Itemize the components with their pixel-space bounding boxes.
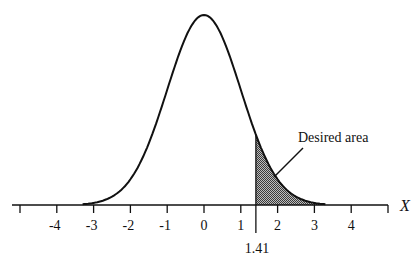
plot-canvas: Desired area X 1.41 -4-3-2-101234 (0, 0, 419, 264)
x-tick-label: 1 (237, 218, 244, 233)
x-axis-tick-labels: -4-3-2-101234 (49, 218, 355, 233)
x-tick-label: -4 (49, 218, 61, 233)
shaded-tail-area (256, 135, 326, 205)
annotation-leader-line (274, 148, 303, 177)
marker-value-label: 1.41 (245, 241, 270, 256)
x-tick-label: 3 (311, 218, 318, 233)
normal-distribution-diagram: Desired area X 1.41 -4-3-2-101234 (0, 0, 419, 264)
x-tick-label: -1 (159, 218, 171, 233)
x-axis-name: X (399, 197, 411, 214)
x-tick-label: 2 (274, 218, 281, 233)
normal-curve (83, 15, 326, 204)
x-tick-label: -3 (86, 218, 98, 233)
x-tick-label: 4 (348, 218, 355, 233)
x-tick-label: 0 (201, 218, 208, 233)
x-axis-ticks (20, 205, 388, 213)
x-tick-label: -2 (123, 218, 135, 233)
desired-area-label: Desired area (298, 130, 369, 145)
